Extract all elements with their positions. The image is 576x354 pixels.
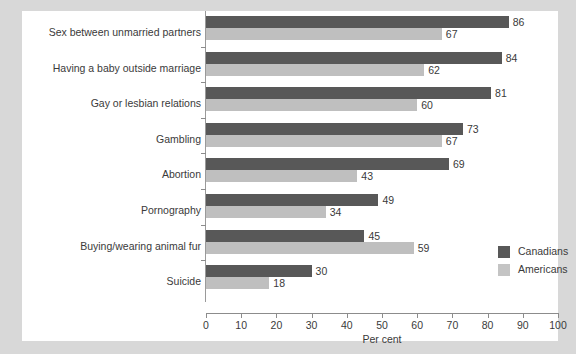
legend-swatch-canadians xyxy=(498,246,510,258)
bar-value-label: 18 xyxy=(273,277,285,289)
x-axis-tick xyxy=(558,313,559,318)
bar-canadians xyxy=(206,123,463,135)
x-axis-tick-label: 60 xyxy=(402,319,432,331)
bar-americans xyxy=(206,64,424,76)
x-axis-tick-label: 40 xyxy=(332,319,362,331)
bar-value-label: 84 xyxy=(506,52,518,64)
x-axis-tick-label: 30 xyxy=(297,319,327,331)
y-axis-tick xyxy=(201,260,206,261)
y-axis-tick xyxy=(201,189,206,190)
bar-canadians xyxy=(206,230,364,242)
x-axis-tick xyxy=(347,313,348,318)
bar-value-label: 45 xyxy=(368,230,380,242)
bar-value-label: 67 xyxy=(446,135,458,147)
y-axis-tick xyxy=(201,225,206,226)
chart-screenshot: Sex between unmarried partnersHaving a b… xyxy=(0,0,576,354)
bar-canadians xyxy=(206,52,502,64)
x-axis-tick-label: 20 xyxy=(261,319,291,331)
legend-swatch-americans xyxy=(498,264,510,276)
x-axis-tick xyxy=(488,313,489,318)
category-label: Having a baby outside marriage xyxy=(53,63,201,74)
bar-value-label: 60 xyxy=(421,99,433,111)
bar-americans xyxy=(206,170,357,182)
bar-americans xyxy=(206,135,442,147)
bar-value-label: 49 xyxy=(382,194,394,206)
x-axis-tick xyxy=(312,313,313,318)
bar-value-label: 81 xyxy=(495,87,507,99)
category-label: Buying/wearing animal fur xyxy=(80,241,201,252)
bar-canadians xyxy=(206,158,449,170)
legend-label-canadians: Canadians xyxy=(518,245,568,257)
category-label: Pornography xyxy=(141,205,201,216)
y-axis-tick xyxy=(201,82,206,83)
bar-americans xyxy=(206,242,414,254)
bar-canadians xyxy=(206,194,378,206)
x-axis-tick xyxy=(241,313,242,318)
x-axis-tick-label: 100 xyxy=(543,319,573,331)
x-axis-tick xyxy=(523,313,524,318)
bar-value-label: 62 xyxy=(428,64,440,76)
x-axis-tick-label: 10 xyxy=(226,319,256,331)
y-axis-line xyxy=(205,11,206,302)
category-label: Sex between unmarried partners xyxy=(49,27,201,38)
bar-americans xyxy=(206,277,269,289)
x-axis-tick xyxy=(276,313,277,318)
x-axis-tick-label: 90 xyxy=(508,319,538,331)
bar-americans xyxy=(206,28,442,40)
bar-value-label: 73 xyxy=(467,123,479,135)
bar-value-label: 34 xyxy=(330,206,342,218)
category-label: Abortion xyxy=(162,169,201,180)
x-axis-tick xyxy=(206,313,207,318)
x-axis-title: Per cent xyxy=(206,333,558,345)
bar-value-label: 86 xyxy=(513,16,525,28)
y-axis-tick xyxy=(201,47,206,48)
legend-label-americans: Americans xyxy=(518,263,568,275)
bar-americans xyxy=(206,206,326,218)
bar-value-label: 30 xyxy=(316,265,328,277)
bar-value-label: 59 xyxy=(418,242,430,254)
bar-canadians xyxy=(206,16,509,28)
bar-canadians xyxy=(206,87,491,99)
category-label: Suicide xyxy=(167,276,201,287)
bar-value-label: 67 xyxy=(446,28,458,40)
x-axis-tick xyxy=(417,313,418,318)
bar-value-label: 69 xyxy=(453,158,465,170)
x-axis-tick-label: 50 xyxy=(367,319,397,331)
bar-americans xyxy=(206,99,417,111)
x-axis-tick xyxy=(382,313,383,318)
x-axis-tick-label: 0 xyxy=(191,319,221,331)
y-axis-tick xyxy=(201,118,206,119)
y-axis-tick xyxy=(201,153,206,154)
x-axis-tick-label: 70 xyxy=(437,319,467,331)
x-axis-tick-label: 80 xyxy=(473,319,503,331)
chart-card: Sex between unmarried partnersHaving a b… xyxy=(22,11,558,341)
bar-canadians xyxy=(206,265,312,277)
category-label: Gay or lesbian relations xyxy=(91,98,201,109)
x-axis-tick xyxy=(452,313,453,318)
bar-value-label: 43 xyxy=(361,170,373,182)
category-label: Gambling xyxy=(156,134,201,145)
